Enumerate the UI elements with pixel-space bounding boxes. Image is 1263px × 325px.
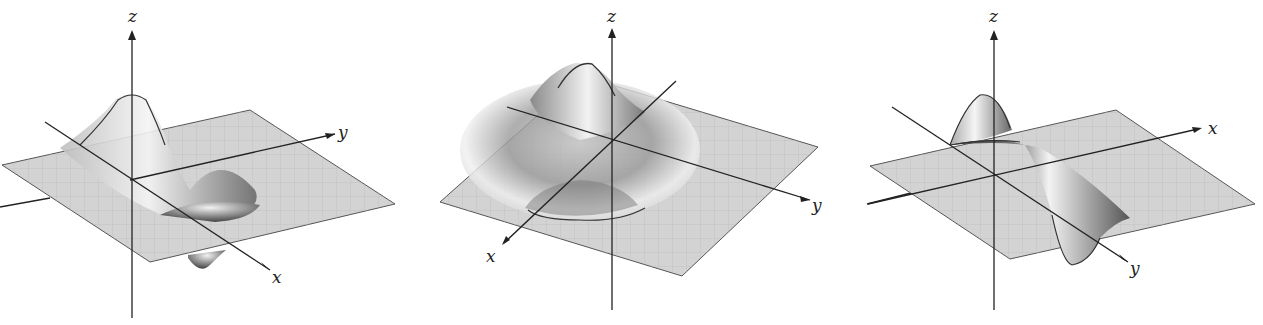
x-axis-label: x [486,246,496,266]
surface-plot-middle: z y x [420,0,840,325]
surface-plot-right: z x y [840,0,1263,325]
surface-plot-left: z y x [0,0,420,325]
z-axis-label: z [988,6,999,26]
y-axis-label: y [811,195,822,215]
z-axis-label: z [127,6,138,26]
x-axis-label: x [1208,118,1218,138]
x-axis-label: x [272,267,282,287]
z-axis-label: z [606,6,617,26]
y-axis-label: y [337,122,348,142]
y-axis-label: y [1129,258,1140,278]
